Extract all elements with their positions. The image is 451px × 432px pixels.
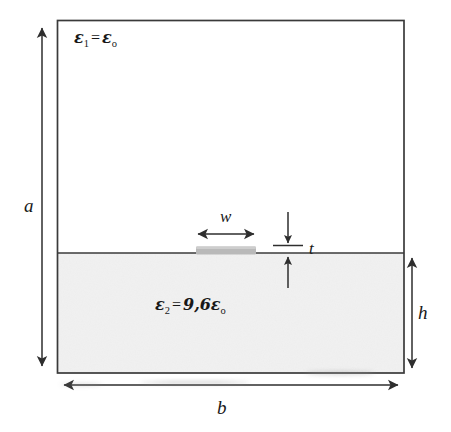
epsilon-value-1: ε: [102, 28, 112, 47]
epsilon-symbol-2: ε: [155, 295, 165, 314]
microstrip-cross-section-figure: ε1=εo ε2=9,6εo a b h w t: [0, 0, 451, 432]
dimension-label-a: a: [24, 196, 34, 215]
dimension-label-b: b: [217, 398, 227, 417]
strip-conductor-shading: [196, 247, 256, 249]
dimension-label-w: w: [220, 208, 231, 225]
epsilon-symbol-1: ε: [74, 28, 84, 47]
permittivity-label-region-1: ε1=εo: [74, 30, 117, 50]
substrate-region: [58, 253, 405, 373]
dimension-label-h: h: [418, 303, 428, 322]
epsilon-value-subscript-1: o: [112, 38, 117, 49]
epsilon-value-2: 9,6ε: [183, 295, 221, 314]
equals-sign: =: [170, 296, 183, 313]
epsilon-value-subscript-2: o: [221, 305, 226, 316]
permittivity-label-region-2: ε2=9,6εo: [155, 297, 226, 317]
equals-sign: =: [89, 29, 102, 46]
dimension-label-t: t: [309, 240, 314, 257]
